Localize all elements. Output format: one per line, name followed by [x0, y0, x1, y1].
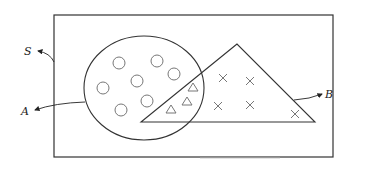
- venn-diagram: S A B: [0, 0, 380, 169]
- cross-element: [219, 74, 227, 82]
- set-b-elements: [214, 74, 299, 118]
- circle-element: [151, 55, 163, 67]
- triangle-element: [166, 105, 176, 113]
- circle-element: [97, 82, 109, 94]
- a-pointer-arrow: [35, 102, 85, 110]
- cross-element: [214, 102, 222, 110]
- label-s: S: [24, 45, 32, 58]
- circle-element: [141, 95, 153, 107]
- universal-set-rectangle: [54, 15, 333, 157]
- triangle-element: [182, 97, 192, 105]
- label-a: A: [20, 105, 29, 118]
- b-pointer-arrow: [294, 94, 322, 100]
- label-b: B: [324, 88, 333, 101]
- set-a-elements: [97, 55, 180, 116]
- circle-element: [168, 68, 180, 80]
- s-pointer-arrow: [38, 51, 54, 62]
- set-a-ellipse: [84, 36, 204, 140]
- circle-element: [115, 104, 127, 116]
- cross-element: [291, 110, 299, 118]
- circle-element: [113, 57, 125, 69]
- triangle-element: [188, 83, 198, 91]
- cross-element: [246, 101, 254, 109]
- cross-element: [246, 77, 254, 85]
- circle-element: [131, 75, 143, 87]
